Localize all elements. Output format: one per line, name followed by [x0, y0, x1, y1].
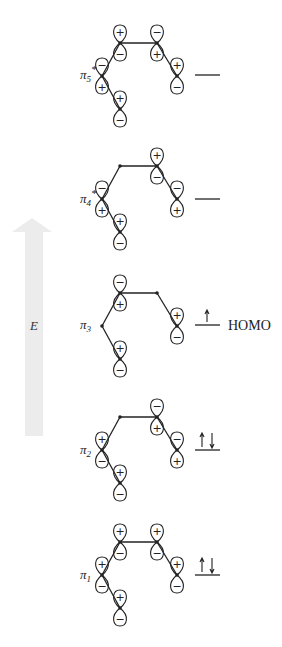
atom-dot	[175, 74, 179, 78]
level-pi2: −++−+−−+π2	[80, 399, 220, 501]
electron-down-arrow-icon	[210, 558, 214, 573]
atom-dot	[100, 197, 104, 201]
atom-dot	[175, 573, 179, 577]
orbital-label: π1	[80, 567, 91, 584]
level-pi5-star: +−−+−++−+−π5*	[80, 25, 220, 127]
minus-sign: −	[115, 613, 124, 626]
atom-dot	[118, 481, 122, 485]
atom-dot	[118, 164, 122, 168]
atom-dot	[118, 540, 122, 544]
plus-sign: +	[172, 204, 181, 217]
orbital-label: π3	[80, 317, 92, 334]
orbital-label: π5*	[80, 63, 97, 84]
minus-sign: −	[152, 26, 161, 39]
minus-sign: −	[115, 114, 124, 127]
minus-sign: −	[152, 400, 161, 413]
minus-sign: −	[115, 364, 124, 377]
minus-sign: −	[115, 276, 124, 289]
atom-dot	[100, 573, 104, 577]
atom-dot	[155, 291, 159, 295]
atom-dot	[100, 448, 104, 452]
level-pi3: −++−+−π3HOMO	[80, 275, 271, 377]
orbital-levels: +−−+−++−+−π5*+−−++−−+π4*−++−+−π3HOMO−++−…	[80, 25, 271, 626]
electron-up-arrow-icon	[200, 558, 204, 572]
atom-dot	[118, 230, 122, 234]
atom-dot	[100, 324, 104, 328]
atom-dot	[155, 164, 159, 168]
atom-dot	[118, 291, 122, 295]
minus-sign: −	[115, 488, 124, 501]
level-pi1: +−+−+−+−+−π1	[80, 524, 220, 626]
atom-dot	[118, 606, 122, 610]
plus-sign: +	[152, 525, 161, 538]
molecular-orbital-diagram: E +−−+−++−+−π5*+−−++−−+π4*−++−+−π3HOMO−+…	[0, 0, 282, 647]
electron-down-arrow-icon	[210, 433, 214, 448]
atom-dot	[155, 415, 159, 419]
plus-sign: +	[172, 455, 181, 468]
atom-dot	[175, 324, 179, 328]
atom-dot	[175, 197, 179, 201]
minus-sign: −	[172, 331, 181, 344]
energy-label: E	[29, 318, 38, 333]
atom-dot	[155, 41, 159, 45]
minus-sign: −	[172, 580, 181, 593]
atom-dot	[100, 74, 104, 78]
atom-dot	[118, 415, 122, 419]
atom-dot	[118, 41, 122, 45]
electron-up-arrow-icon	[205, 310, 209, 322]
orbital-label: π2	[80, 442, 92, 459]
plus-sign: +	[115, 26, 124, 39]
level-pi4-star: +−−++−−+π4*	[80, 148, 220, 250]
plus-sign: +	[115, 525, 124, 538]
plus-sign: +	[152, 149, 161, 162]
atom-dot	[175, 448, 179, 452]
atom-dot	[118, 357, 122, 361]
atom-dot	[118, 107, 122, 111]
minus-sign: −	[172, 81, 181, 94]
homo-label: HOMO	[228, 318, 271, 333]
energy-axis: E	[12, 218, 52, 436]
electron-up-arrow-icon	[200, 433, 204, 447]
minus-sign: −	[115, 237, 124, 250]
orbital-label: π4*	[80, 187, 97, 208]
atom-dot	[155, 540, 159, 544]
